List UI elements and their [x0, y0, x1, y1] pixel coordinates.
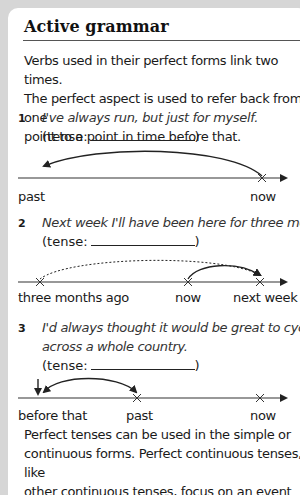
tense-close: ) [195, 234, 200, 249]
active-grammar-box: Active grammar Verbs used in their perfe… [8, 8, 300, 495]
item-number: 3 [18, 319, 26, 338]
example-sentence: across a whole country. [42, 337, 188, 356]
outro-line: Perfect tenses can be used in the simple… [24, 425, 300, 444]
tense-close: ) [195, 358, 200, 373]
timeline-label-now: now [175, 288, 201, 307]
example-sentence: I've always run, but just for myself. [42, 108, 258, 127]
intro-line: Verbs used in their perfect forms link t… [24, 51, 300, 89]
example-sentence: Next week I'll have been here for three … [42, 213, 300, 232]
tense-field[interactable]: (tense:) [42, 232, 200, 251]
tense-label: (tense: [42, 129, 88, 144]
example-sentence: I'd always thought it would be great to … [42, 318, 300, 337]
timeline-diagram [18, 376, 300, 406]
timeline-label-three-months-ago: three months ago [18, 288, 129, 307]
timeline-label-before-that: before that [18, 406, 87, 425]
timeline-diagram [18, 148, 300, 182]
tense-blank[interactable] [91, 357, 195, 370]
timeline-label-past: past [18, 187, 45, 206]
example-item-2: 2 Next week I'll have been here for thre… [18, 213, 300, 308]
box-title: Active grammar [24, 17, 169, 36]
tense-blank[interactable] [91, 233, 195, 246]
example-item-1: 1 I've always run, but just for myself. … [18, 108, 300, 203]
tense-field[interactable]: (tense:) [42, 127, 200, 146]
tense-blank[interactable] [91, 128, 195, 141]
outro-line: continuous forms. Perfect continuous ten… [24, 444, 300, 482]
tense-field[interactable]: (tense:) [42, 356, 200, 375]
title-divider [23, 40, 300, 41]
timeline-diagram [18, 255, 300, 287]
outro-line: other continuous tenses, focus on an eve… [24, 482, 300, 495]
timeline-label-now: now [250, 187, 276, 206]
item-number: 1 [18, 109, 26, 128]
timeline-label-past: past [126, 406, 153, 425]
timeline-label-now: now [250, 406, 276, 425]
example-item-3: 3 I'd always thought it would be great t… [18, 318, 300, 428]
tense-label: (tense: [42, 234, 88, 249]
item-number: 2 [18, 214, 26, 233]
timeline-label-next-week: next week [233, 288, 297, 307]
outro-paragraph: Perfect tenses can be used in the simple… [24, 425, 300, 495]
tense-close: ) [195, 129, 200, 144]
tense-label: (tense: [42, 358, 88, 373]
